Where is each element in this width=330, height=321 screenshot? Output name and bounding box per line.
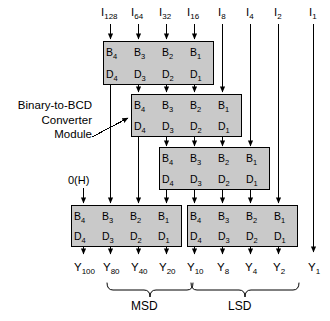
output-label-y40: Y40 [131, 262, 148, 276]
module-4-pin-d2: D2 [130, 231, 142, 245]
group-label-lsd: LSD [228, 300, 251, 312]
module-4-pin-b1: B1 [158, 211, 169, 225]
module-1-pin-d3: D3 [134, 69, 146, 83]
module-4-pin-d1: D1 [158, 231, 170, 245]
module-1-pin-d2: D2 [162, 69, 174, 83]
module-3-pin-b1: B1 [246, 153, 257, 167]
module-2-pin-b1: B1 [218, 100, 229, 114]
output-label-y100: Y100 [74, 262, 95, 276]
module-1-pin-b1: B1 [190, 47, 201, 61]
output-label-y20: Y20 [159, 262, 176, 276]
group-label-msd: MSD [131, 300, 158, 312]
module-2-pin-b2: B2 [190, 100, 201, 114]
module-5-pin-d3: D3 [218, 231, 230, 245]
module-3-pin-b4: B4 [162, 153, 173, 167]
input-label-i32: I32 [159, 7, 171, 21]
input-label-i1: I1 [309, 7, 317, 21]
group-braces [107, 283, 299, 297]
module-2-pin-d1: D1 [218, 121, 230, 135]
module-3-pin-d4: D4 [162, 174, 174, 188]
input-label-i16: I16 [187, 7, 199, 21]
output-label-y8: Y8 [217, 262, 229, 276]
module-annotation-line3: Module [0, 127, 92, 142]
module-5-pin-b3: B3 [218, 211, 229, 225]
input-label-i64: I64 [131, 7, 143, 21]
module-5-pin-b1: B1 [274, 211, 285, 225]
output-label-y1: Y1 [308, 262, 320, 276]
module-5-pin-d4: D4 [190, 231, 202, 245]
module-2-pin-d4: D4 [134, 121, 146, 135]
module-3-pin-d1: D1 [246, 174, 258, 188]
output-label-y4: Y4 [245, 262, 257, 276]
module-5-pin-b4: B4 [190, 211, 201, 225]
module-2-pin-b3: B3 [162, 100, 173, 114]
module-1-pin-b2: B2 [162, 47, 173, 61]
input-label-i2: I2 [274, 7, 282, 21]
module-4-pin-b2: B2 [130, 211, 141, 225]
module-4-pin-b4: B4 [74, 211, 85, 225]
diagram-canvas: I128 I64 I32 I16 I8 I4 I2 I1 B4 B3 B2 B1… [0, 0, 330, 321]
constant-input-label: 0(H) [68, 175, 89, 186]
module-4-pin-d4: D4 [74, 231, 86, 245]
module-annotation-line2: Converter [0, 113, 92, 128]
module-1-pin-d4: D4 [106, 69, 118, 83]
module-annotation-line1: Binary-to-BCD [0, 98, 92, 113]
module-1-pin-d1: D1 [190, 69, 202, 83]
module-3-pin-d3: D3 [190, 174, 202, 188]
input-label-i128: I128 [101, 7, 118, 21]
input-label-i8: I8 [218, 7, 226, 21]
module-4-pin-d3: D3 [102, 231, 114, 245]
input-label-i4: I4 [246, 7, 254, 21]
output-label-y2: Y2 [273, 262, 285, 276]
module-2-pin-d2: D2 [190, 121, 202, 135]
module-3-pin-b2: B2 [218, 153, 229, 167]
module-3-pin-b3: B3 [190, 153, 201, 167]
module-5-pin-d2: D2 [246, 231, 258, 245]
module-annotation: Binary-to-BCD Converter Module [0, 98, 92, 142]
module-1-pin-b4: B4 [106, 47, 117, 61]
module-2-pin-d3: D3 [162, 121, 174, 135]
module-5-pin-d1: D1 [274, 231, 286, 245]
output-label-y80: Y80 [103, 262, 120, 276]
output-label-y10: Y10 [187, 262, 204, 276]
module-3-pin-d2: D2 [218, 174, 230, 188]
module-5-pin-b2: B2 [246, 211, 257, 225]
module-2-pin-b4: B4 [134, 100, 145, 114]
module-4-pin-b3: B3 [102, 211, 113, 225]
module-1-pin-b3: B3 [134, 47, 145, 61]
